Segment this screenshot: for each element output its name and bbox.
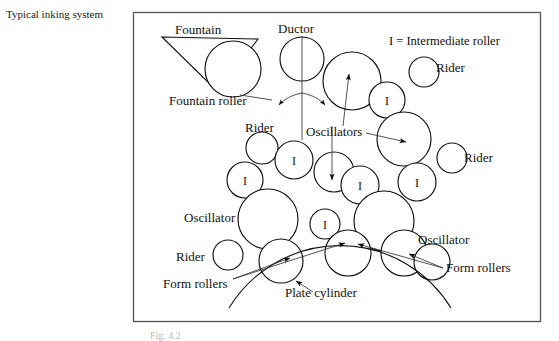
roller-fountain-roller bbox=[205, 41, 261, 97]
label-oscillators: Oscillators bbox=[306, 124, 362, 139]
mark-intermediate-lower: I bbox=[323, 218, 327, 232]
roller-oscillator-right-upper bbox=[377, 112, 431, 166]
legend-intermediate-roller: I = Intermediate roller bbox=[389, 34, 501, 48]
mark-intermediate-mid-4: I bbox=[415, 176, 419, 190]
diagram-stage: Fountain Fountain roller Ductor I = Inte… bbox=[0, 0, 559, 341]
roller-rider-mid-left bbox=[246, 132, 278, 164]
roller-rider-upper-right bbox=[409, 57, 439, 87]
label-rider-upper-right: Rider bbox=[436, 60, 466, 75]
figure-caption: Fig. 4.2 bbox=[150, 330, 181, 341]
roller-form-roller-right-2 bbox=[414, 244, 450, 280]
label-plate-cylinder: Plate cylinder bbox=[285, 285, 358, 300]
label-fountain: Fountain bbox=[175, 22, 222, 37]
label-rider-left: Rider bbox=[245, 120, 275, 135]
label-form-rollers-right: Form rollers bbox=[446, 260, 511, 275]
label-rider-bottom: Rider bbox=[176, 249, 206, 264]
roller-form-roller-mid bbox=[325, 230, 371, 276]
mark-intermediate-mid-1: I bbox=[292, 154, 296, 168]
label-form-rollers-left: Form rollers bbox=[163, 276, 228, 291]
ductor-swing-arc-left bbox=[279, 93, 302, 105]
mark-intermediate-mid-left: I bbox=[243, 174, 247, 188]
mark-intermediate-upper-right: I bbox=[385, 94, 389, 108]
ductor-swing-arc-right bbox=[302, 93, 325, 105]
label-rider-mid-right: Rider bbox=[464, 150, 494, 165]
label-ductor: Ductor bbox=[278, 21, 315, 36]
mark-intermediate-mid-3: I bbox=[358, 179, 362, 193]
roller-rider-mid-right bbox=[437, 143, 467, 173]
roller-rider-lower-left bbox=[213, 240, 243, 270]
label-oscillator-right: Oscillator bbox=[418, 232, 470, 247]
label-fountain-roller: Fountain roller bbox=[169, 93, 247, 108]
label-oscillator-left: Oscillator bbox=[184, 210, 236, 225]
